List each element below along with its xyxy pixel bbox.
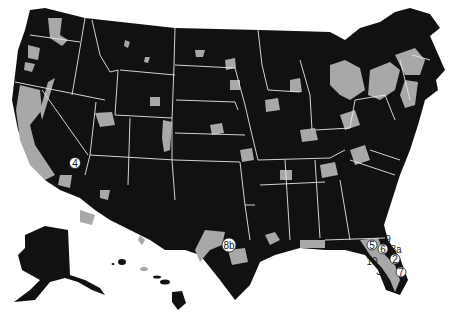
marker-3[interactable]: 3 — [376, 266, 382, 277]
svg-text:6: 6 — [380, 244, 386, 255]
marker-6[interactable]: 6 — [378, 244, 388, 255]
hawaii-inset — [112, 259, 187, 310]
marker-8b[interactable]: 8b — [222, 238, 236, 252]
marker-1[interactable]: 1 — [383, 273, 389, 284]
svg-text:3: 3 — [376, 266, 382, 277]
svg-text:7: 7 — [398, 267, 404, 278]
marker-7[interactable]: 7 — [396, 267, 406, 278]
svg-text:2: 2 — [392, 254, 398, 265]
svg-text:4: 4 — [72, 158, 78, 169]
marker-4[interactable]: 4 — [70, 158, 81, 169]
svg-text:8b: 8b — [223, 240, 235, 251]
svg-text:5: 5 — [369, 240, 375, 251]
us-map: 4 8b 9 5 6 8a 2 10 3 — [0, 0, 469, 316]
alaska-inset — [14, 226, 105, 302]
marker-5[interactable]: 5 — [367, 240, 377, 251]
marker-2[interactable]: 2 — [390, 254, 400, 265]
svg-text:1: 1 — [383, 273, 389, 284]
